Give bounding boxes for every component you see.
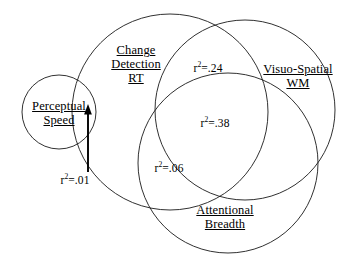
- stat-value: =.24: [201, 62, 222, 74]
- set-label-perceptual-speed-line2: Speed: [20, 113, 98, 127]
- set-label-attentional-breadth: Attentional Breadth: [178, 203, 272, 231]
- set-label-perceptual-speed: Perceptual Speed: [20, 99, 98, 127]
- set-label-change-detection-rt-line3: RT: [97, 71, 175, 85]
- stat-label-r2-cd-vs: r2=.24: [178, 62, 238, 75]
- stat-value: =.06: [162, 162, 183, 174]
- venn-circles-canvas: [0, 0, 354, 276]
- set-label-change-detection-rt-line2: Detection: [97, 57, 175, 71]
- set-label-change-detection-rt-line1: Change: [97, 43, 175, 57]
- set-label-attentional-breadth-line2: Breadth: [178, 217, 272, 231]
- set-label-attentional-breadth-line1: Attentional: [178, 203, 272, 217]
- venn-diagram-figure: Perceptual Speed Change Detection RT Vis…: [0, 0, 354, 276]
- set-label-visuo-spatial-wm: Visuo-Spatial WM: [253, 62, 343, 90]
- set-label-visuo-spatial-wm-line1: Visuo-Spatial: [253, 62, 343, 76]
- stat-label-r2-center: r2=.38: [185, 117, 245, 130]
- set-label-change-detection-rt: Change Detection RT: [97, 43, 175, 85]
- set-label-visuo-spatial-wm-line2: WM: [253, 76, 343, 90]
- stat-value: =.01: [68, 174, 89, 186]
- stat-label-r2-ps-cd: r2=.01: [48, 174, 102, 187]
- stat-value: =.38: [208, 117, 229, 129]
- stat-label-r2-cd-ab: r2=.06: [140, 162, 198, 175]
- set-label-perceptual-speed-line1: Perceptual: [20, 99, 98, 113]
